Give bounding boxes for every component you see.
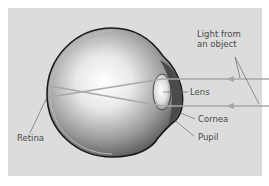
label-retina: Retina: [17, 133, 44, 143]
label-lens: Lens: [190, 87, 210, 97]
label-light-from-object: Light from an object: [197, 29, 241, 49]
label-cornea: Cornea: [198, 114, 228, 124]
arrow-icon: [226, 76, 234, 109]
label-pupil: Pupil: [198, 132, 218, 142]
eye-diagram: [0, 0, 269, 186]
